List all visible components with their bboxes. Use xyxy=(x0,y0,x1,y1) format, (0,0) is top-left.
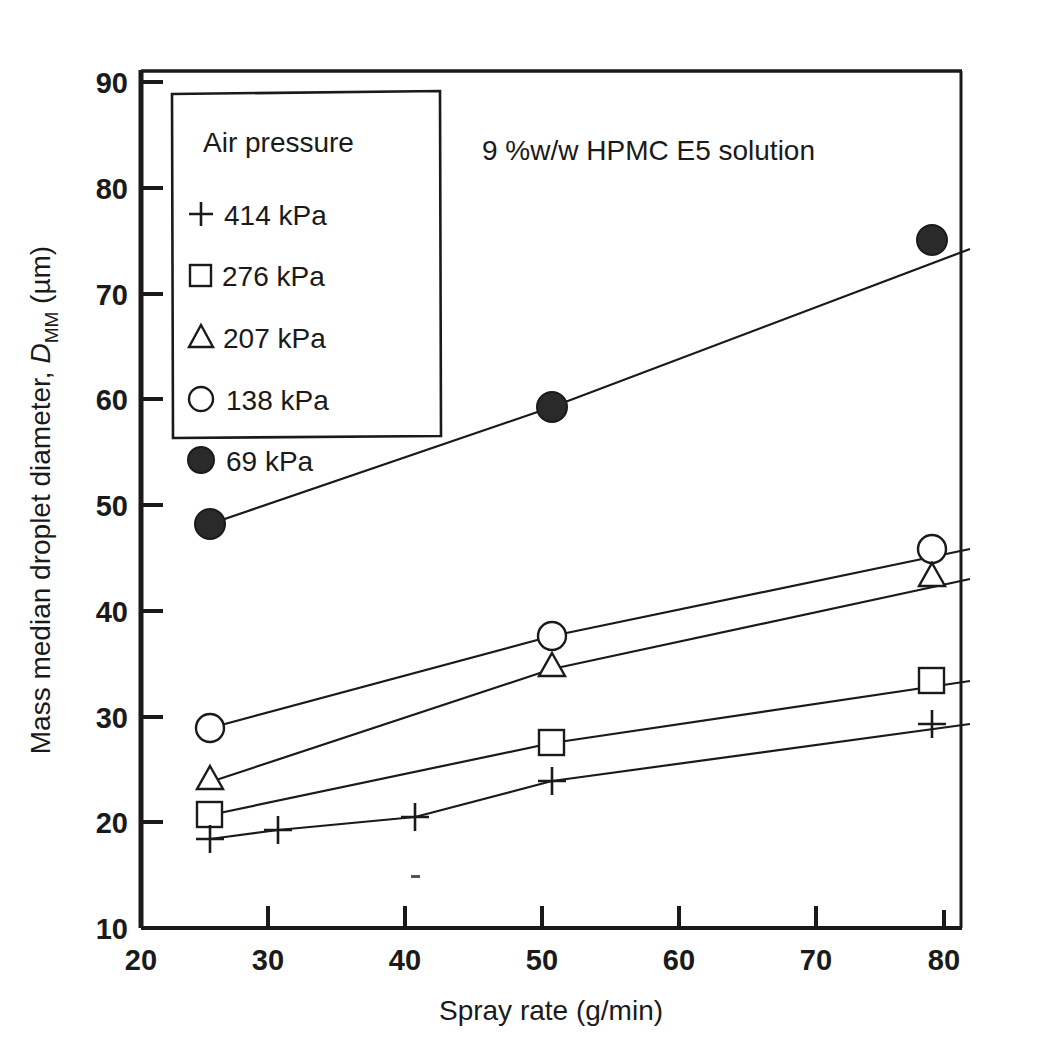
x-tick-label-70: 70 xyxy=(800,944,832,976)
series-138-kpa xyxy=(196,535,970,742)
data-point-marker xyxy=(917,225,947,255)
y-tick-label-90: 90 xyxy=(96,67,128,99)
x-tick-label-50: 50 xyxy=(526,944,558,976)
legend-heading: Air pressure xyxy=(203,127,354,158)
x-tick-label-40: 40 xyxy=(389,944,421,976)
data-point-marker xyxy=(196,714,224,742)
x-tick-label-30: 30 xyxy=(252,944,284,976)
plot-frame xyxy=(141,70,962,928)
data-point-marker xyxy=(538,767,566,795)
legend: 414 kPa Air pressure 414 kPa 276 kPa 207… xyxy=(172,91,441,438)
plus-marker xyxy=(189,202,213,226)
data-point-marker xyxy=(197,802,222,827)
y-axis-title-symbol: D xyxy=(25,343,56,363)
legend-label-207-kpa: 207 kPa xyxy=(223,323,326,354)
legend-label-138-kpa: 138 kPa xyxy=(226,385,329,416)
x-axis-title: Spray rate (g/min) xyxy=(439,995,663,1026)
droplet-diameter-line-chart: 90 80 70 60 50 40 30 20 10 20 30 40 50 6… xyxy=(0,0,1063,1047)
legend-entry-69-kpa: 69 kPa xyxy=(188,446,314,477)
y-axis-title: Mass median droplet diameter, DMM (µm) xyxy=(25,246,62,754)
x-axis-ticks xyxy=(268,906,944,928)
square-marker xyxy=(190,265,211,286)
chart-figure: 90 80 70 60 50 40 30 20 10 20 30 40 50 6… xyxy=(0,0,1063,1047)
data-point-marker xyxy=(919,668,944,693)
data-point-marker xyxy=(919,563,945,586)
data-point-marker xyxy=(197,766,223,789)
legend-entry-414-kpa: 414 kPa xyxy=(189,200,327,231)
y-axis-title-prefix: Mass median droplet diameter, xyxy=(25,364,56,755)
data-point-marker xyxy=(539,730,564,755)
data-point-marker xyxy=(196,825,224,853)
legend-entry-138-kpa: 138 kPa xyxy=(189,385,329,416)
y-tick-label-10: 10 xyxy=(96,913,128,945)
x-tick-label-80: 80 xyxy=(928,944,960,976)
series-line-138-kpa xyxy=(210,549,970,728)
data-point-marker xyxy=(195,509,225,539)
data-point-marker xyxy=(918,710,946,738)
y-tick-label-40: 40 xyxy=(96,596,128,628)
legend-label-69-kpa: 69 kPa xyxy=(226,446,314,477)
x-tick-label-60: 60 xyxy=(663,944,695,976)
y-tick-label-70: 70 xyxy=(96,279,128,311)
legend-label-276-kpa: 276 kPa xyxy=(222,261,325,292)
legend-entry-276-kpa: 276 kPa xyxy=(190,261,325,292)
series-line-414-kpa xyxy=(210,724,970,839)
legend-entry-207-kpa: 207 kPa xyxy=(189,323,326,354)
series-414-kpa xyxy=(196,710,970,853)
triangle-marker xyxy=(189,325,213,347)
y-tick-label-50: 50 xyxy=(96,490,128,522)
legend-label-414-kpa: 414 kPa xyxy=(224,200,327,231)
y-tick-label-30: 30 xyxy=(96,702,128,734)
series-line-207-kpa xyxy=(210,579,970,782)
filled-circle-marker xyxy=(188,447,214,473)
circle-marker xyxy=(189,387,213,411)
x-tick-label-20: 20 xyxy=(125,944,157,976)
x-axis-tick-labels: 20 30 40 50 60 70 80 xyxy=(125,944,960,976)
y-axis-title-subscript: MM xyxy=(41,312,62,344)
series-line-276-kpa xyxy=(210,681,970,815)
scan-speck xyxy=(411,875,420,878)
data-point-marker xyxy=(264,816,292,844)
data-point-marker xyxy=(918,535,946,563)
y-axis-ticks xyxy=(141,82,163,822)
data-point-marker xyxy=(401,803,429,831)
data-point-marker xyxy=(537,392,567,422)
y-tick-label-80: 80 xyxy=(96,173,128,205)
series-207-kpa xyxy=(197,563,970,789)
y-axis-title-suffix: (µm) xyxy=(25,246,56,312)
data-point-marker xyxy=(538,622,566,650)
y-axis-tick-labels: 90 80 70 60 50 40 30 20 10 xyxy=(96,67,128,945)
y-tick-label-60: 60 xyxy=(96,384,128,416)
plot-annotation: 9 %w/w HPMC E5 solution xyxy=(482,135,815,166)
svg-text:Mass median droplet diameter,: Mass median droplet diameter, DMM (µm) xyxy=(25,246,62,754)
data-point-marker xyxy=(539,653,565,676)
y-tick-label-20: 20 xyxy=(96,807,128,839)
